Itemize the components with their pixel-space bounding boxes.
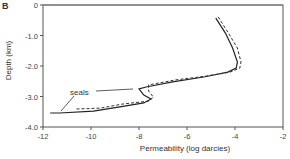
svg-text:-10: -10 [86, 132, 97, 141]
seals-leader-lower [61, 96, 74, 111]
svg-text:-3.0: -3.0 [25, 93, 38, 102]
seals-leader-upper [96, 89, 133, 91]
svg-text:-8: -8 [136, 132, 143, 141]
chart-figure: B Depth (km) Permeability (log darcies) … [0, 0, 290, 159]
svg-text:-4.0: -4.0 [25, 123, 38, 132]
plot-area: 0 -1.0 -2.0 -3.0 -4.0 -12 -10 -8 -6 -4 -… [0, 0, 290, 159]
series-solid-line [50, 18, 237, 113]
svg-text:-2: -2 [280, 132, 287, 141]
svg-text:-4: -4 [232, 132, 239, 141]
svg-text:-2.0: -2.0 [25, 62, 38, 71]
series-dashed-line [77, 17, 241, 109]
svg-text:-12: -12 [38, 132, 49, 141]
svg-text:-1.0: -1.0 [25, 32, 38, 41]
svg-text:0: 0 [34, 1, 38, 10]
svg-text:-6: -6 [184, 132, 191, 141]
x-ticks: -12 -10 -8 -6 -4 -2 [38, 127, 287, 141]
y-ticks: 0 -1.0 -2.0 -3.0 -4.0 [25, 1, 43, 132]
